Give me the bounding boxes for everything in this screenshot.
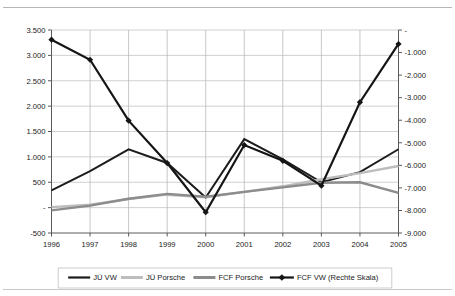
left-axis-tick-label: 2.000	[26, 102, 45, 111]
right-axis-tick-label: -8.000	[405, 206, 427, 215]
right-axis-tick-label: -4.000	[405, 116, 427, 125]
right-axis-tick-label: -9.000	[405, 229, 427, 238]
series-line	[52, 40, 399, 213]
x-axis-tick-label: 1998	[120, 240, 137, 249]
legend-item-label: FCF VW (Rechte Skala)	[297, 273, 379, 282]
right-axis-tick-label: -3.000	[405, 93, 427, 102]
right-axis-tick-label: -7.000	[405, 184, 427, 193]
left-axis-ticks: -500-5001.0001.5002.0002.5003.0003.500	[26, 26, 51, 238]
series-fcf-vw-rechte-skala	[48, 37, 401, 216]
series-line	[52, 139, 399, 197]
chart-legend: JÜ VWJÜ PorscheFCF PorscheFCF VW (Rechte…	[58, 268, 392, 288]
legend-item-label: JÜ Porsche	[146, 273, 185, 282]
series-line	[52, 166, 399, 207]
x-axis-tick-label: 2000	[197, 240, 214, 249]
x-axis-tick-label: 2001	[236, 240, 253, 249]
x-axis-tick-label: 1997	[82, 240, 99, 249]
left-axis-tick-label: 3.000	[26, 51, 45, 60]
series-j-porsche	[52, 166, 399, 207]
left-axis-tick-label: 2.500	[26, 77, 45, 86]
line-chart-plot: -500-5001.0001.5002.0002.5003.0003.500 -…	[0, 8, 455, 293]
data-series-layer	[48, 37, 401, 216]
x-axis-tick-label: 1999	[159, 240, 176, 249]
horizontal-gridlines	[52, 30, 399, 208]
right-axis-ticks: -9.000-8.000-7.000-6.000-5.000-4.000-3.0…	[399, 26, 427, 238]
right-axis-tick-label: -1.000	[405, 48, 427, 57]
left-axis-tick-label: 3.500	[26, 26, 45, 35]
left-axis-tick-label: 1.000	[26, 153, 45, 162]
series-j-vw	[52, 139, 399, 197]
x-axis-tick-label: 1996	[43, 240, 60, 249]
left-axis-tick-label: 500	[33, 178, 46, 187]
legend-item-label: FCF Porsche	[218, 273, 263, 282]
left-axis-tick-label: 1.500	[26, 127, 45, 136]
legend-item-label: JÜ VW	[93, 273, 117, 282]
x-axis-ticks: 1996199719981999200020012002200320042005	[43, 233, 407, 249]
x-axis-tick-label: 2005	[390, 240, 407, 249]
series-line	[52, 182, 399, 210]
chart-figure: -500-5001.0001.5002.0002.5003.0003.500 -…	[0, 0, 455, 296]
left-axis-tick-label: -	[43, 203, 46, 212]
series-fcf-porsche	[52, 182, 399, 210]
right-axis-tick-label: -	[405, 26, 408, 35]
x-axis-tick-label: 2004	[351, 240, 368, 249]
x-axis-tick-label: 2003	[313, 240, 330, 249]
right-axis-tick-label: -5.000	[405, 139, 427, 148]
x-axis-tick-label: 2002	[274, 240, 291, 249]
right-axis-tick-label: -2.000	[405, 71, 427, 80]
right-axis-tick-label: -6.000	[405, 161, 427, 170]
left-axis-tick-label: -500	[30, 229, 45, 238]
